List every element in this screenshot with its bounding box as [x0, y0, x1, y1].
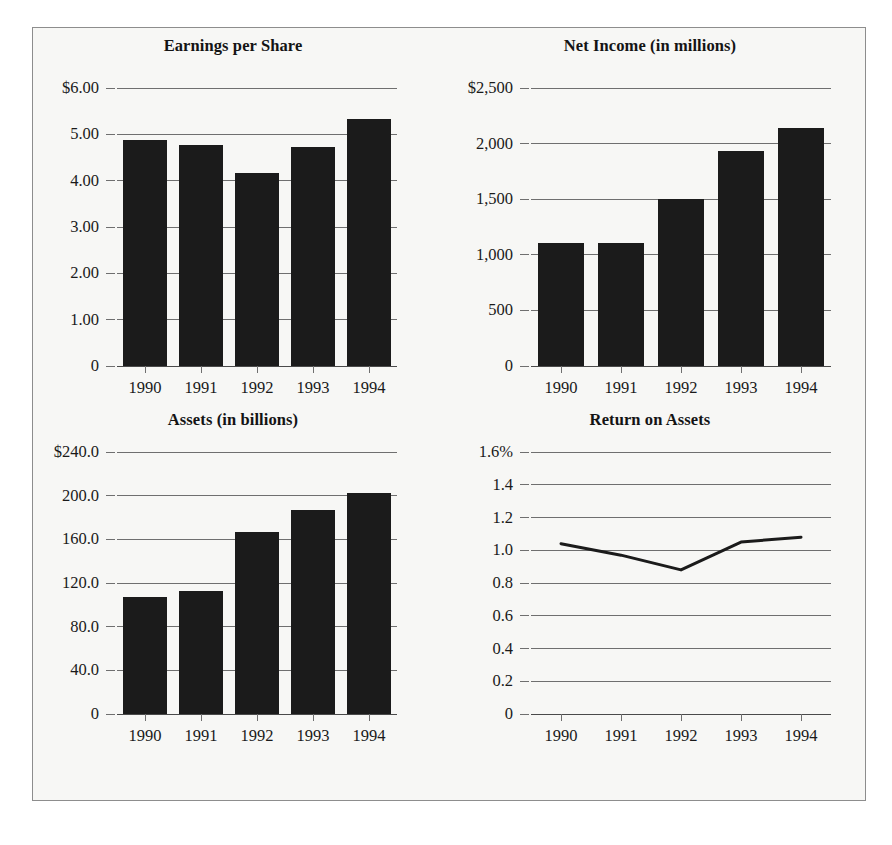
figure-frame: Earnings per Share 01.002.003.004.005.00… — [32, 27, 866, 801]
x-axis-tick — [801, 366, 802, 373]
bar — [718, 151, 765, 366]
plot-area-return-on-assets: 00.20.40.60.81.01.21.41.6%19901991199219… — [531, 452, 831, 714]
x-axis-tick-label: 1994 — [785, 378, 818, 398]
bar — [347, 493, 391, 714]
y-axis-tick-label: 200.0 — [62, 486, 99, 506]
bar — [179, 591, 223, 714]
x-axis-tick — [621, 714, 622, 721]
y-axis-tick — [106, 88, 115, 89]
x-axis-tick — [257, 366, 258, 373]
gridline — [117, 452, 397, 453]
x-axis-tick — [313, 366, 314, 373]
x-axis-tick-label: 1991 — [185, 726, 218, 746]
x-axis-tick-label: 1992 — [241, 726, 274, 746]
y-axis-tick-label: 0 — [505, 704, 513, 724]
y-axis-tick — [520, 452, 529, 453]
y-axis-tick — [520, 88, 529, 89]
x-axis-tick-label: 1992 — [665, 378, 698, 398]
x-axis-tick — [201, 714, 202, 721]
x-axis-tick — [313, 714, 314, 721]
x-axis-tick-label: 1990 — [129, 378, 162, 398]
x-axis-tick-label: 1990 — [545, 726, 578, 746]
y-axis-tick — [106, 273, 115, 274]
x-axis-tick-label: 1994 — [785, 726, 818, 746]
y-axis-tick-label: 0 — [505, 356, 513, 376]
y-axis-tick — [520, 615, 529, 616]
y-axis-tick — [106, 134, 115, 135]
x-axis-tick-label: 1993 — [297, 378, 330, 398]
x-axis-tick — [257, 714, 258, 721]
y-axis-tick — [520, 366, 529, 367]
y-axis-tick — [520, 310, 529, 311]
y-axis-tick — [106, 670, 115, 671]
bar — [235, 532, 279, 714]
x-axis-tick-label: 1991 — [605, 378, 638, 398]
x-axis-tick — [621, 366, 622, 373]
y-axis-tick — [520, 550, 529, 551]
y-axis-tick-label: 1.6% — [479, 442, 513, 462]
x-axis-tick — [201, 366, 202, 373]
x-axis-tick-label: 1993 — [725, 378, 758, 398]
panel-return-on-assets: Return on Assets 00.20.40.60.81.01.21.41… — [433, 410, 867, 760]
y-axis-tick — [520, 583, 529, 584]
y-axis-tick-label: 2,000 — [476, 134, 513, 154]
bar — [778, 128, 825, 366]
panel-assets: Assets (in billions) 040.080.0120.0160.0… — [33, 410, 433, 760]
plot-area-earnings-per-share: 01.002.003.004.005.00$6.0019901991199219… — [117, 88, 397, 366]
plot-area-net-income: 05001,0001,5002,000$2,500199019911992199… — [531, 88, 831, 366]
y-axis-tick — [520, 714, 529, 715]
x-axis-tick — [681, 714, 682, 721]
y-axis-tick — [106, 583, 115, 584]
x-axis-tick — [801, 714, 802, 721]
x-axis-tick-label: 1993 — [297, 726, 330, 746]
bar — [235, 173, 279, 366]
x-axis-tick-label: 1992 — [241, 378, 274, 398]
y-axis-tick — [106, 495, 115, 496]
bar — [598, 243, 645, 366]
panel-title-assets: Assets (in billions) — [33, 410, 433, 430]
x-axis-tick — [145, 714, 146, 721]
bar — [658, 199, 705, 366]
y-axis-tick — [520, 199, 529, 200]
y-axis-tick — [520, 681, 529, 682]
y-axis-tick — [520, 648, 529, 649]
y-axis-tick-label: 1.00 — [70, 310, 99, 330]
bar — [291, 510, 335, 714]
x-axis-tick-label: 1994 — [353, 726, 386, 746]
y-axis-tick-label: 0.4 — [492, 639, 513, 659]
y-axis-tick-label: 1,500 — [476, 189, 513, 209]
plot-area-assets: 040.080.0120.0160.0200.0$240.01990199119… — [117, 452, 397, 714]
x-axis-tick-label: 1991 — [605, 726, 638, 746]
y-axis-tick-label: 0.8 — [492, 573, 513, 593]
y-axis-tick-label: 1,000 — [476, 245, 513, 265]
line-series — [531, 452, 831, 714]
x-axis-tick — [741, 714, 742, 721]
y-axis-tick-label: 500 — [488, 300, 513, 320]
y-axis-tick — [520, 484, 529, 485]
panel-title-net-income: Net Income (in millions) — [433, 36, 867, 56]
y-axis-tick — [520, 517, 529, 518]
x-axis-tick — [561, 714, 562, 721]
y-axis-tick-label: 40.0 — [70, 660, 99, 680]
gridline — [531, 88, 831, 89]
x-axis-tick — [145, 366, 146, 373]
y-axis-tick-label: 80.0 — [70, 617, 99, 637]
y-axis-tick — [520, 254, 529, 255]
y-axis-tick-label: $2,500 — [468, 78, 513, 98]
y-axis-tick-label: 1.2 — [492, 508, 513, 528]
x-axis-tick-label: 1994 — [353, 378, 386, 398]
bar — [291, 147, 335, 366]
gridline — [117, 88, 397, 89]
y-axis-tick — [520, 143, 529, 144]
y-axis-tick — [106, 180, 115, 181]
bar — [179, 145, 223, 366]
y-axis-tick — [106, 319, 115, 320]
y-axis-tick-label: 5.00 — [70, 124, 99, 144]
y-axis-tick-label: 2.00 — [70, 263, 99, 283]
panel-net-income: Net Income (in millions) 05001,0001,5002… — [433, 36, 867, 396]
y-axis-tick-label: $6.00 — [62, 78, 99, 98]
y-axis-tick — [106, 714, 115, 715]
bar — [123, 140, 167, 366]
y-axis-tick — [106, 227, 115, 228]
y-axis-tick — [106, 626, 115, 627]
